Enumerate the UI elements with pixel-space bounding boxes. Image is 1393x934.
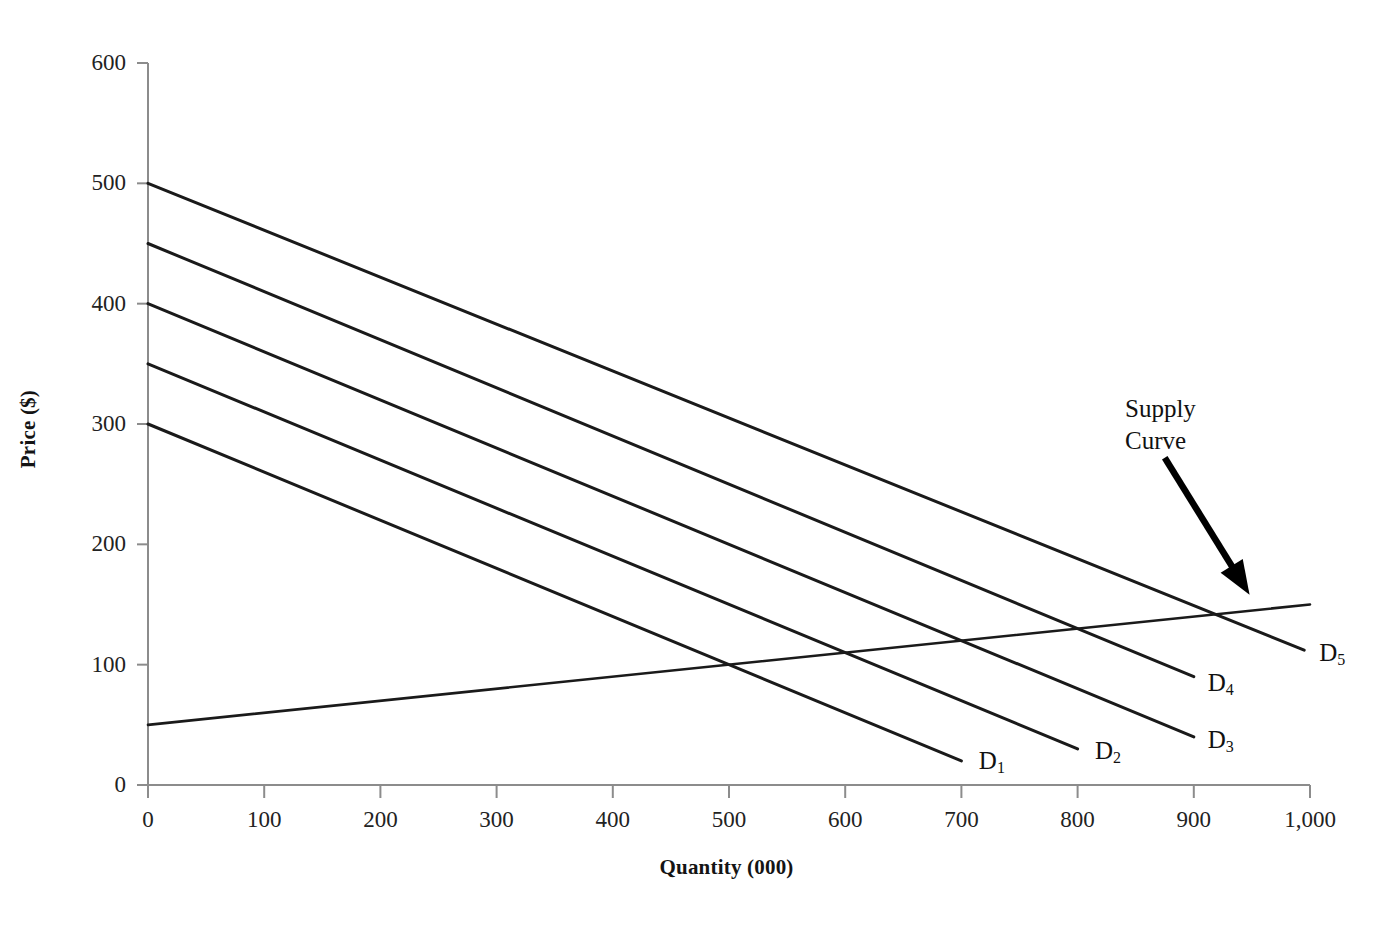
curve-label-letter: D	[1208, 669, 1226, 696]
x-tick-label: 900	[1177, 807, 1212, 833]
curve-label-subscript: 1	[997, 759, 1005, 776]
curve-d4	[148, 244, 1194, 677]
curve-label-d2: D2	[1095, 737, 1121, 765]
supply-curve-annotation: Supply Curve	[1125, 393, 1196, 457]
curve-label-letter: D	[1095, 737, 1113, 764]
x-axis-title: Quantity (000)	[0, 855, 1393, 880]
curve-label-subscript: 4	[1226, 681, 1234, 698]
supply-demand-chart: Price ($) Quantity (000) 010020030040050…	[0, 0, 1393, 934]
x-tick-label: 0	[142, 807, 154, 833]
supply-annotation-line1: Supply	[1125, 393, 1196, 425]
y-tick-label: 400	[92, 291, 127, 317]
curve-label-subscript: 3	[1226, 738, 1234, 755]
curve-label-d4: D4	[1208, 669, 1234, 697]
curve-d2	[148, 364, 1078, 749]
curves-group	[148, 183, 1310, 761]
curve-label-subscript: 5	[1337, 651, 1345, 668]
x-tick-label: 300	[479, 807, 514, 833]
y-tick-label: 100	[92, 652, 127, 678]
annotation-arrow-head	[1221, 559, 1250, 595]
curve-label-d3: D3	[1208, 726, 1234, 754]
y-axis-title: Price ($)	[16, 390, 41, 468]
y-tick-label: 200	[92, 531, 127, 557]
x-tick-label: 100	[247, 807, 282, 833]
x-tick-label: 600	[828, 807, 863, 833]
y-tick-label: 600	[92, 50, 127, 76]
x-tick-label: 500	[712, 807, 747, 833]
supply-annotation-line2: Curve	[1125, 425, 1196, 457]
curve-supply	[148, 605, 1310, 725]
y-tick-label: 0	[115, 772, 127, 798]
x-tick-label: 200	[363, 807, 398, 833]
plot-area	[0, 0, 1393, 934]
curve-label-letter: D	[1208, 726, 1226, 753]
x-tick-label: 800	[1060, 807, 1095, 833]
x-tick-label: 1,000	[1284, 807, 1336, 833]
curve-label-letter: D	[979, 747, 997, 774]
curve-label-letter: D	[1319, 639, 1337, 666]
x-tick-label: 400	[596, 807, 631, 833]
y-tick-label: 300	[92, 411, 127, 437]
curve-d1	[148, 424, 961, 761]
y-tick-label: 500	[92, 170, 127, 196]
annotation-arrow-group	[1165, 458, 1250, 595]
curve-label-d1: D1	[979, 747, 1005, 775]
annotation-arrow-shaft	[1165, 458, 1235, 571]
curve-label-d5: D5	[1319, 639, 1345, 667]
curve-label-subscript: 2	[1113, 749, 1121, 766]
x-tick-label: 700	[944, 807, 979, 833]
